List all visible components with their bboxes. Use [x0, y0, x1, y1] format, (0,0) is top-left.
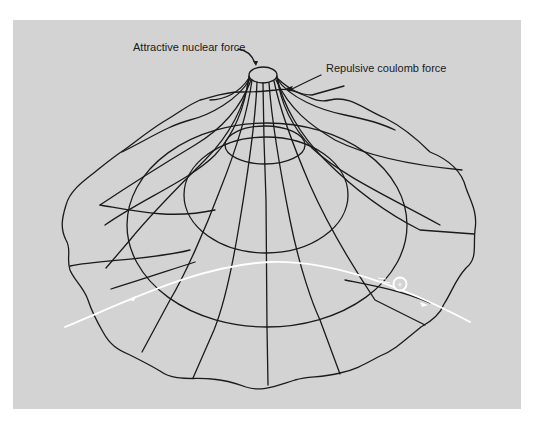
- funnel-top: [249, 67, 277, 83]
- potential-surface-diagram: +: [0, 0, 546, 434]
- radial-lines: [70, 78, 474, 385]
- charged-particle: +: [394, 278, 407, 291]
- trajectory-arrow-right: [420, 302, 428, 307]
- particle-charge-symbol: +: [397, 280, 402, 290]
- funnel-left-edge: [105, 76, 249, 225]
- funnel-right-edge: [277, 76, 440, 225]
- label-attractive-nuclear-force: Attractive nuclear force: [133, 41, 246, 53]
- repulsive-pointer: [290, 75, 321, 90]
- outer-rim: [62, 89, 475, 388]
- label-repulsive-coulomb-force: Repulsive coulomb force: [326, 62, 446, 74]
- attractive-arrowhead: [253, 61, 258, 66]
